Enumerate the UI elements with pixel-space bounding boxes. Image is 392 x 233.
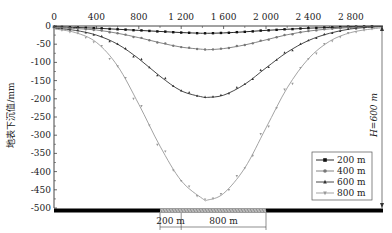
circle-marker	[93, 29, 95, 31]
circle-marker	[140, 37, 142, 39]
y-axis-title: 地表下沉值/mm	[5, 82, 16, 148]
x-tick-label: 2 800	[338, 12, 364, 22]
triangle-down-marker	[331, 40, 333, 42]
square-marker	[267, 29, 269, 31]
x-tick-label: 1 200	[168, 12, 194, 22]
y-tick-label: -350	[31, 148, 51, 158]
circle-marker	[323, 28, 325, 30]
triangle-up-marker	[220, 94, 222, 96]
circle-marker	[85, 28, 87, 30]
y-tick-label: -500	[31, 203, 51, 213]
circle-marker	[252, 42, 254, 44]
circle-marker	[188, 47, 190, 49]
series-600m	[53, 25, 383, 97]
triangle-up-marker	[260, 69, 262, 71]
circle-marker	[196, 48, 198, 50]
x-tick-label: 2 000	[253, 12, 279, 22]
square-marker	[307, 27, 309, 29]
triangle-up-marker	[140, 58, 142, 60]
square-marker	[164, 30, 166, 32]
triangle-up-marker	[236, 86, 238, 88]
square-marker	[156, 30, 158, 32]
circle-marker	[236, 45, 238, 47]
triangle-down-marker	[108, 58, 110, 60]
legend-label: 400 m	[337, 166, 366, 176]
triangle-down-marker	[236, 175, 238, 177]
triangle-down-marker	[69, 31, 71, 33]
circle-marker	[331, 28, 333, 30]
triangle-up-marker	[283, 51, 285, 53]
y-tick-label: -150	[31, 76, 51, 86]
triangle-down-marker	[339, 36, 341, 38]
y-tick-label: -400	[31, 167, 51, 177]
legend-label: 600 m	[337, 177, 366, 187]
triangle-down-marker	[156, 144, 158, 146]
square-marker	[204, 32, 206, 34]
triangle-down-marker	[132, 98, 134, 100]
square-marker	[236, 31, 238, 33]
circle-marker	[180, 46, 182, 48]
circle-marker	[148, 39, 150, 41]
circle-marker	[275, 36, 277, 38]
square-marker	[252, 30, 254, 32]
circle-marker	[260, 39, 262, 41]
circle-marker	[204, 48, 206, 50]
triangle-down-marker	[164, 150, 166, 152]
triangle-down-marker	[291, 83, 293, 85]
legend-label: 800 m	[337, 188, 366, 198]
square-marker	[299, 27, 301, 29]
circle-marker	[220, 47, 222, 49]
dim-label-large: 800 m	[209, 216, 238, 226]
triangle-up-marker	[164, 77, 166, 79]
y-tick-label: -250	[31, 112, 51, 122]
square-marker	[124, 28, 126, 30]
y-tick-label: -450	[31, 185, 51, 195]
triangle-down-marker	[355, 31, 357, 33]
square-marker	[283, 28, 285, 30]
circle-marker	[116, 32, 118, 34]
circle-marker	[124, 33, 126, 35]
circle-marker	[307, 30, 309, 32]
dim-label-small: 200 m	[156, 216, 185, 226]
square-marker	[101, 27, 103, 29]
x-tick-label: 1 600	[211, 12, 237, 22]
circle-marker	[156, 41, 158, 43]
circle-marker	[315, 29, 317, 31]
legend: 200 m400 m600 m800 m	[312, 152, 372, 200]
triangle-up-marker	[101, 35, 103, 37]
series-line	[54, 27, 383, 98]
y-tick-label: -50	[37, 39, 52, 49]
y-tick-label: 0	[45, 21, 51, 31]
x-tick-label: 800	[130, 12, 147, 22]
triangle-down-marker	[85, 37, 87, 39]
circle-marker	[228, 47, 230, 49]
square-marker	[212, 32, 214, 34]
square-marker	[315, 27, 317, 29]
triangle-down-marker	[228, 189, 230, 191]
square-marker	[275, 29, 277, 31]
triangle-up-marker	[212, 95, 214, 97]
circle-marker	[291, 33, 293, 35]
circle-marker	[164, 42, 166, 44]
circle-marker	[132, 36, 134, 38]
series-line	[54, 26, 383, 49]
circle-marker	[323, 169, 327, 173]
square-marker	[260, 29, 262, 31]
circle-marker	[299, 31, 301, 33]
depth-label: H=600 m	[369, 93, 379, 138]
triangle-up-marker	[323, 33, 325, 35]
triangle-down-marker	[93, 41, 95, 43]
square-marker	[116, 28, 118, 30]
x-tick-label: 400	[88, 12, 105, 22]
square-marker	[148, 30, 150, 32]
triangle-down-marker	[267, 126, 269, 128]
y-tick-label: -200	[31, 94, 51, 104]
circle-marker	[339, 27, 341, 29]
x-tick-label: 2 400	[296, 12, 322, 22]
x-tick-label: 0	[51, 12, 57, 22]
arrow-down-icon	[380, 203, 384, 208]
square-marker	[323, 158, 327, 162]
circle-marker	[212, 48, 214, 50]
circle-marker	[172, 45, 174, 47]
circle-marker	[101, 29, 103, 31]
